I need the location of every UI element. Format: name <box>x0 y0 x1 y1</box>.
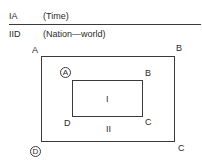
outer-label-b: B <box>176 43 182 53</box>
region-ii: II <box>106 124 111 134</box>
row1-label: (Time) <box>43 11 69 21</box>
row1-code: IA <box>9 11 18 21</box>
inner-label-b: B <box>145 68 151 78</box>
outer-label-d-circled: D <box>30 146 41 157</box>
region-i: I <box>106 94 109 104</box>
row2-label: (Nation—world) <box>43 29 106 39</box>
row2-code: IID <box>9 29 21 39</box>
inner-label-a-circled: A <box>60 67 71 78</box>
outer-label-a: A <box>32 45 38 55</box>
outer-label-c: C <box>178 143 185 153</box>
inner-label-d: D <box>64 118 71 128</box>
divider <box>9 24 201 25</box>
inner-label-c: C <box>145 117 152 127</box>
